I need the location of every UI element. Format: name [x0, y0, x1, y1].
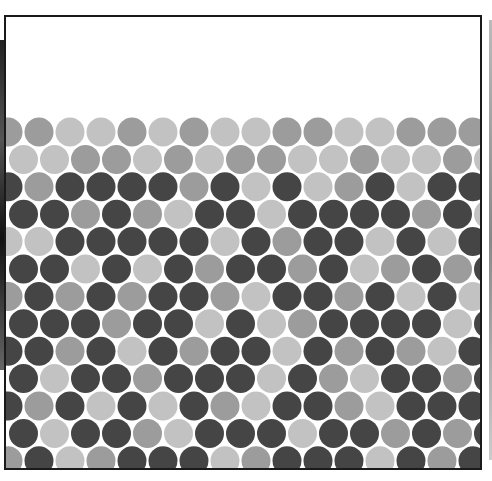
particle-dark	[257, 419, 286, 448]
particle-light	[381, 145, 410, 174]
particle-light	[474, 145, 480, 174]
particle-dark	[9, 364, 38, 393]
particle-light	[350, 364, 379, 393]
particle-light	[366, 227, 395, 256]
particle-medium	[335, 392, 364, 421]
particle-dark	[319, 255, 348, 284]
particle-medium	[164, 145, 193, 174]
particle-medium	[397, 337, 426, 366]
particle-medium	[335, 337, 364, 366]
particle-dark	[180, 392, 209, 421]
particle-dark	[335, 446, 364, 468]
particle-light	[118, 337, 147, 366]
particle-dark	[397, 446, 426, 468]
particle-medium	[443, 145, 472, 174]
particle-dark	[273, 446, 302, 468]
particle-medium	[133, 200, 162, 229]
particle-dark	[412, 419, 441, 448]
particle-dark	[56, 392, 85, 421]
particle-dark	[149, 446, 178, 468]
particle-light	[71, 255, 100, 284]
particle-medium	[443, 364, 472, 393]
particle-dark	[288, 200, 317, 229]
particle-medium	[56, 337, 85, 366]
particle-light	[195, 145, 224, 174]
particle-dark	[366, 337, 395, 366]
particle-light	[397, 282, 426, 311]
particle-medium	[428, 446, 457, 468]
particle-medium	[25, 118, 54, 147]
particle-medium	[288, 255, 317, 284]
particle-dark	[412, 364, 441, 393]
particle-medium	[56, 282, 85, 311]
particle-dark	[40, 255, 69, 284]
particle-light	[242, 282, 271, 311]
particle-medium	[443, 255, 472, 284]
container-frame	[4, 15, 482, 470]
particle-light	[304, 172, 333, 201]
particle-medium	[273, 227, 302, 256]
particle-light	[335, 118, 364, 147]
particle-light	[397, 172, 426, 201]
particle-dark	[319, 309, 348, 338]
particle-dark	[118, 446, 147, 468]
particle-light	[242, 392, 271, 421]
particle-medium	[304, 118, 333, 147]
particle-dark	[164, 309, 193, 338]
particle-dark	[366, 282, 395, 311]
particle-dark	[102, 364, 131, 393]
particle-dark	[87, 172, 116, 201]
particle-dark	[304, 446, 333, 468]
particle-light	[366, 118, 395, 147]
particle-light	[242, 172, 271, 201]
particle-dark	[118, 172, 147, 201]
particle-dark	[180, 227, 209, 256]
particle-medium	[397, 118, 426, 147]
particle-dark	[25, 337, 54, 366]
particle-light	[211, 446, 240, 468]
particle-medium	[25, 172, 54, 201]
particle-medium	[180, 172, 209, 201]
particle-medium	[180, 118, 209, 147]
particle-dark	[273, 392, 302, 421]
particle-light	[6, 227, 23, 256]
particle-dark	[6, 172, 23, 201]
particle-medium	[118, 282, 147, 311]
particle-medium	[459, 118, 481, 147]
particle-dark	[474, 309, 480, 338]
particle-medium	[335, 282, 364, 311]
particle-light	[149, 118, 178, 147]
particle-dark	[474, 419, 480, 448]
particle-medium	[180, 337, 209, 366]
particle-light	[474, 200, 480, 229]
particle-medium	[102, 145, 131, 174]
particle-dark	[335, 227, 364, 256]
particle-dark	[164, 255, 193, 284]
particle-medium	[412, 200, 441, 229]
particle-dark	[428, 172, 457, 201]
particle-dark	[319, 419, 348, 448]
particle-dark	[9, 255, 38, 284]
particle-dark	[9, 309, 38, 338]
particle-dark	[56, 227, 85, 256]
particle-dark	[459, 392, 481, 421]
particle-medium	[87, 446, 116, 468]
particle-dark	[412, 255, 441, 284]
particle-light	[428, 227, 457, 256]
particle-dark	[180, 446, 209, 468]
particle-medium	[71, 200, 100, 229]
particle-dark	[25, 282, 54, 311]
particle-light	[273, 337, 302, 366]
particle-dark	[273, 282, 302, 311]
particle-light	[288, 145, 317, 174]
particle-light	[257, 364, 286, 393]
particle-dark	[350, 309, 379, 338]
particle-dark	[366, 172, 395, 201]
particle-dark	[102, 200, 131, 229]
particle-dark	[9, 419, 38, 448]
particle-dark	[474, 364, 480, 393]
particle-light	[366, 392, 395, 421]
particle-dark	[288, 364, 317, 393]
particle-medium	[319, 364, 348, 393]
particle-dark	[381, 364, 410, 393]
